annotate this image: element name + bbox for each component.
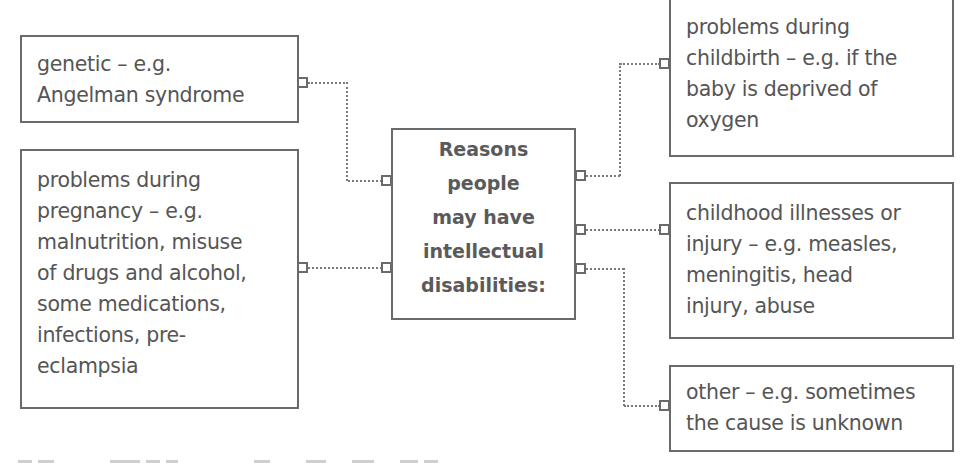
connector-childhood-h xyxy=(586,229,660,231)
connector-pregnancy-h xyxy=(308,267,382,269)
cause-box-genetic: genetic – e.g. Angelman syndrome xyxy=(20,35,299,123)
connector-genetic-v xyxy=(346,82,348,181)
connector-port-other-in xyxy=(659,400,670,411)
connector-other-v xyxy=(623,268,625,406)
cause-box-pregnancy: problems during pregnancy – e.g. malnutr… xyxy=(20,149,299,409)
connector-childbirth-h2 xyxy=(620,63,660,65)
connector-port-childbirth-in xyxy=(659,58,670,69)
connector-other-h1 xyxy=(586,268,624,270)
connector-port-pregnancy-out xyxy=(297,262,308,273)
central-topic-box: Reasons people may have intellectual dis… xyxy=(391,128,576,320)
connector-port-center-in-genetic xyxy=(381,175,392,186)
connector-genetic-h2 xyxy=(348,180,382,182)
cause-box-childhood: childhood illnesses or injury – e.g. mea… xyxy=(669,182,954,339)
cause-box-childbirth: problems during childbirth – e.g. if the… xyxy=(669,0,954,157)
connector-childbirth-h1 xyxy=(586,175,620,177)
connector-other-h2 xyxy=(624,405,660,407)
connector-port-center-in-pregnancy xyxy=(381,262,392,273)
cause-box-other: other – e.g. sometimes the cause is unkn… xyxy=(669,365,954,452)
connector-port-center-out-childbirth xyxy=(575,170,586,181)
connector-port-center-out-childhood xyxy=(575,224,586,235)
connector-port-center-out-other xyxy=(575,263,586,274)
figure-caption-cropped xyxy=(18,460,478,465)
connector-port-childhood-in xyxy=(659,224,670,235)
connector-port-genetic-out xyxy=(297,77,308,88)
connector-childbirth-v xyxy=(619,63,621,176)
connector-genetic-h1 xyxy=(308,82,348,84)
